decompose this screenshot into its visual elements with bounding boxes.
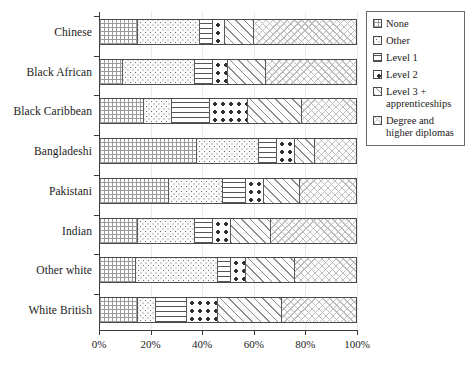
legend-swatch-icon <box>373 19 382 28</box>
bar-segment <box>231 258 246 282</box>
plot-area: ChineseBlack AfricanBlack CaribbeanBangl… <box>99 12 357 330</box>
legend-label: Degree and higher diplomas <box>386 115 454 139</box>
bar-segment <box>259 139 277 163</box>
bar-segment <box>264 179 300 203</box>
x-tick-label: 0% <box>92 338 107 350</box>
bar-segment <box>295 258 356 282</box>
bar-segment <box>100 139 197 163</box>
bar-segment <box>100 99 144 123</box>
bar-segment <box>195 60 213 84</box>
legend-label: Level 3 + apprenticeships <box>386 86 451 110</box>
bar-segment <box>100 219 138 243</box>
bar-row: Indian <box>99 218 357 244</box>
bar-track <box>99 59 357 85</box>
legend-item[interactable]: None <box>373 18 459 30</box>
legend-item[interactable]: Level 3 + apprenticeships <box>373 86 459 110</box>
bar-segment <box>246 258 295 282</box>
legend-label: Other <box>386 35 410 47</box>
bar-track <box>99 257 357 283</box>
category-label: Chinese <box>54 26 92 38</box>
stacked-bar-chart: 0%20%40%60%80%100% ChineseBlack AfricanB… <box>0 0 470 366</box>
legend-item[interactable]: Level 2 <box>373 69 459 81</box>
bar-segment <box>254 20 356 44</box>
x-tick-label: 80% <box>295 338 315 350</box>
bar-track <box>99 178 357 204</box>
bar-segment <box>172 99 210 123</box>
bar-segment <box>295 139 315 163</box>
legend-item[interactable]: Degree and higher diplomas <box>373 115 459 139</box>
bar-row: White British <box>99 297 357 323</box>
legend-item[interactable]: Other <box>373 35 459 47</box>
bar-segment <box>300 179 356 203</box>
x-tick <box>99 330 100 335</box>
bar-row: Black African <box>99 59 357 85</box>
y-tick <box>94 135 99 136</box>
x-tick <box>357 330 358 335</box>
bar-segment <box>213 60 228 84</box>
bar-segment <box>225 20 253 44</box>
bar-segment <box>218 298 282 322</box>
bar-segment <box>315 139 356 163</box>
bar-segment <box>231 219 272 243</box>
x-tick <box>202 330 203 335</box>
bar-segment <box>187 298 218 322</box>
category-label: Indian <box>62 225 92 237</box>
x-axis-line <box>99 330 358 331</box>
y-tick <box>94 16 99 17</box>
bar-track <box>99 138 357 164</box>
category-label: White British <box>28 304 92 316</box>
x-tick <box>305 330 306 335</box>
legend-item[interactable]: Level 1 <box>373 52 459 64</box>
chart-legend: NoneOtherLevel 1Level 2Level 3 + apprent… <box>366 11 465 146</box>
bar-segment <box>100 20 138 44</box>
bar-row: Black Caribbean <box>99 98 357 124</box>
bar-row: Pakistani <box>99 178 357 204</box>
bar-segment <box>302 99 356 123</box>
x-tick-label: 60% <box>244 338 264 350</box>
bar-segment <box>100 298 138 322</box>
bar-segment <box>200 20 213 44</box>
bar-track <box>99 19 357 45</box>
category-label: Bangladeshi <box>34 145 92 157</box>
bar-track <box>99 98 357 124</box>
x-tick <box>254 330 255 335</box>
legend-swatch-icon <box>373 116 382 125</box>
bar-segment <box>266 60 356 84</box>
bar-segment <box>123 60 195 84</box>
bar-segment <box>213 20 226 44</box>
legend-swatch-icon <box>373 87 382 96</box>
bar-segment <box>138 219 194 243</box>
bar-row: Bangladeshi <box>99 138 357 164</box>
bar-segment <box>144 99 172 123</box>
bar-track <box>99 218 357 244</box>
bar-segment <box>100 60 123 84</box>
y-tick <box>94 254 99 255</box>
category-label: Other white <box>36 264 92 276</box>
y-tick <box>94 175 99 176</box>
x-tick-label: 40% <box>192 338 212 350</box>
bar-segment <box>228 60 266 84</box>
category-label: Pakistani <box>49 185 92 197</box>
bar-segment <box>156 298 187 322</box>
y-tick <box>94 95 99 96</box>
bar-row: Other white <box>99 257 357 283</box>
legend-swatch-icon <box>373 70 382 79</box>
bar-segment <box>246 179 264 203</box>
x-tick <box>151 330 152 335</box>
bar-segment <box>100 179 169 203</box>
bar-segment <box>169 179 223 203</box>
bar-segment <box>195 219 213 243</box>
gridline <box>357 12 358 330</box>
bar-track <box>99 297 357 323</box>
bar-segment <box>248 99 302 123</box>
y-tick <box>94 56 99 57</box>
bar-segment <box>100 258 136 282</box>
category-label: Black African <box>27 66 92 78</box>
x-tick-label: 100% <box>344 338 370 350</box>
legend-label: None <box>386 18 409 30</box>
x-tick-label: 20% <box>141 338 161 350</box>
bar-segment <box>210 99 248 123</box>
bar-segment <box>223 179 246 203</box>
bar-segment <box>218 258 231 282</box>
legend-label: Level 1 <box>386 52 418 64</box>
